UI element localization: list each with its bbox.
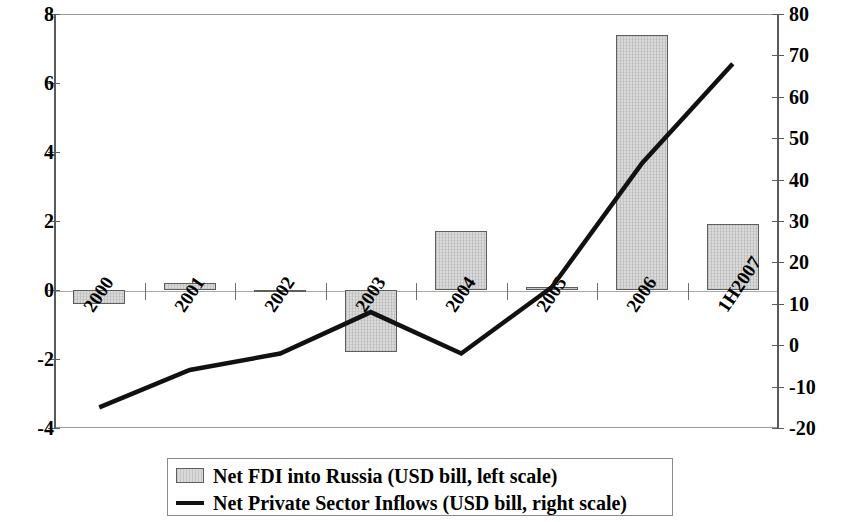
legend-item-net-private-sector-inflows: Net Private Sector Inflows (USD bill, ri…: [176, 489, 664, 516]
legend: Net FDI into Russia (USD bill, left scal…: [167, 458, 673, 516]
left-axis-tick-label: 4: [44, 142, 54, 162]
category-tick: [688, 283, 689, 300]
right-axis-tick: [772, 345, 784, 346]
bar-2006: [616, 35, 668, 290]
legend-item-label: Net FDI into Russia (USD bill, left scal…: [213, 466, 557, 486]
category-tick: [145, 283, 146, 300]
right-axis-tick: [772, 138, 784, 139]
category-tick: [326, 283, 327, 300]
left-axis-tick-label: 0: [44, 280, 54, 300]
category-tick: [416, 283, 417, 300]
category-tick: [235, 283, 236, 300]
bar-swatch-icon: [176, 468, 204, 483]
right-axis-tick: [772, 262, 784, 263]
left-axis-tick-label: 8: [44, 4, 54, 24]
category-tick: [507, 283, 508, 300]
right-axis-tick-label: 40: [789, 170, 809, 190]
plot-area: [54, 14, 778, 428]
right-axis-tick: [772, 55, 784, 56]
left-axis-tick-label: 6: [44, 73, 54, 93]
left-axis-tick-label: -2: [37, 349, 54, 369]
right-axis-tick-label: -10: [789, 377, 816, 397]
right-axis-tick: [772, 180, 784, 181]
chart-container: 86420-2-4 80706050403020100-10-20 200020…: [0, 0, 843, 522]
right-axis-tick: [772, 387, 784, 388]
right-axis-tick-label: 0: [789, 335, 799, 355]
legend-item-net-fdi: Net FDI into Russia (USD bill, left scal…: [176, 462, 664, 489]
right-axis-tick: [772, 14, 784, 15]
right-axis-tick-label: 80: [789, 4, 809, 24]
left-axis-tick-label: -4: [37, 418, 54, 438]
category-tick: [597, 283, 598, 300]
left-axis-tick-label: 2: [44, 211, 54, 231]
right-axis-tick-label: -20: [789, 418, 816, 438]
right-axis-tick-label: 20: [789, 252, 809, 272]
right-axis-tick: [772, 304, 784, 305]
right-axis-tick: [772, 221, 784, 222]
legend-item-label: Net Private Sector Inflows (USD bill, ri…: [213, 493, 627, 513]
right-axis-tick-label: 10: [789, 294, 809, 314]
right-axis-tick-label: 60: [789, 87, 809, 107]
right-axis-tick: [772, 97, 784, 98]
right-axis-tick-label: 70: [789, 45, 809, 65]
right-axis-tick: [772, 428, 784, 429]
right-axis-tick-label: 30: [789, 211, 809, 231]
right-axis-tick-label: 50: [789, 128, 809, 148]
line-swatch-icon: [176, 501, 204, 505]
